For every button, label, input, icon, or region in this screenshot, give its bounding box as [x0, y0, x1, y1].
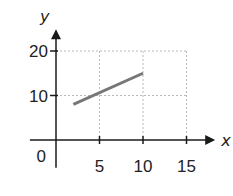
chart: 510151020 x y 0	[0, 0, 233, 196]
y-axis-arrow-icon	[51, 29, 61, 39]
series-layer	[73, 73, 143, 104]
x-axis-title: x	[220, 131, 231, 150]
axes-layer	[30, 29, 215, 168]
x-tick-label: 15	[177, 157, 196, 176]
x-tick-label: 5	[95, 157, 104, 176]
x-tick-label: 10	[134, 157, 153, 176]
y-tick-label: 20	[29, 42, 48, 61]
origin-label: 0	[37, 147, 46, 166]
series-line-segment	[73, 73, 143, 104]
grid-layer	[56, 51, 187, 140]
y-tick-label: 10	[29, 87, 48, 106]
ticks-layer: 510151020	[29, 42, 196, 176]
x-axis-arrow-icon	[205, 135, 215, 145]
y-axis-title: y	[39, 7, 50, 26]
